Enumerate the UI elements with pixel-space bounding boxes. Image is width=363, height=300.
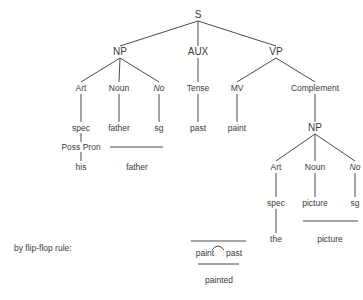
node-paint: paint [228, 123, 246, 133]
node-art: Art [76, 83, 87, 93]
rule-result: painted [205, 275, 233, 285]
node-s: S [195, 10, 202, 20]
node-picture-surface: picture [317, 234, 343, 244]
node-vp: VP [269, 47, 282, 57]
node-object-noun: Noun [305, 162, 325, 172]
node-past: past [190, 123, 206, 133]
node-object-no: No [350, 162, 361, 172]
tree-edges [0, 0, 363, 300]
node-father-surface: father [126, 162, 148, 172]
rule-left: paint [196, 248, 214, 258]
node-noun: Noun [109, 83, 129, 93]
node-sg: sg [155, 123, 164, 133]
rule-right: past [226, 248, 242, 258]
node-object-art: Art [271, 162, 282, 172]
node-object-picture: picture [302, 198, 328, 208]
node-no: No [154, 83, 165, 93]
node-complement: Complement [291, 83, 339, 93]
node-object-sg: sg [351, 198, 360, 208]
node-np: NP [113, 47, 127, 57]
node-aux: AUX [188, 47, 209, 57]
node-object-spec: spec [267, 198, 285, 208]
node-father: father [108, 123, 130, 133]
node-object-np: NP [308, 123, 322, 133]
node-tense: Tense [187, 83, 210, 93]
node-the: the [270, 234, 282, 244]
node-his: his [76, 162, 87, 172]
node-poss-pron: Poss Pron [61, 142, 100, 152]
flip-flop-rule-label: by flip-flop rule: [14, 243, 72, 253]
node-spec: spec [72, 123, 90, 133]
node-mv: MV [231, 83, 244, 93]
